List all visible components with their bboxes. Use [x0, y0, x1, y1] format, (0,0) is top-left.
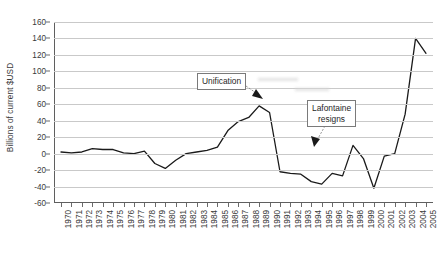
x-tick-mark	[270, 203, 271, 207]
x-tick-label: 1996	[335, 210, 344, 228]
x-tick-mark	[144, 203, 145, 207]
data-line	[61, 38, 426, 188]
annotation-lafontaine: Lafontaine resigns	[307, 100, 356, 127]
x-tick-label: 1992	[294, 210, 303, 228]
annotation-lafontaine-label-line1: Lafontaine	[312, 103, 351, 113]
x-tick-mark	[322, 203, 323, 207]
x-tick-mark	[61, 203, 62, 207]
x-tick-mark	[228, 203, 229, 207]
x-tick-label: 1974	[106, 210, 115, 228]
x-tick-mark	[92, 203, 93, 207]
x-tick-label: 1991	[283, 210, 292, 228]
x-tick-label: 2003	[408, 210, 417, 228]
x-tick-mark	[238, 203, 239, 207]
x-tick-label: 1971	[75, 210, 84, 228]
x-tick-label: 1977	[137, 210, 146, 228]
y-axis-title: Billions of current $USD	[0, 0, 22, 215]
x-tick-label: 1999	[367, 210, 376, 228]
x-tick-label: 1995	[325, 210, 334, 228]
x-tick-mark	[363, 203, 364, 207]
y-tick-mark	[46, 87, 50, 88]
gridline	[54, 55, 433, 56]
x-tick-mark	[71, 203, 72, 207]
gridline	[54, 22, 433, 23]
x-tick-mark	[207, 203, 208, 207]
y-tick-mark	[46, 186, 50, 187]
x-tick-mark	[353, 203, 354, 207]
x-tick-label: 1988	[252, 210, 261, 228]
x-tick-label: 2001	[387, 210, 396, 228]
x-tick-mark	[374, 203, 375, 207]
gridline	[54, 38, 433, 39]
x-tick-label: 1990	[273, 210, 282, 228]
gridline	[54, 170, 433, 171]
x-tick-mark	[259, 203, 260, 207]
y-tick-mark	[46, 120, 50, 121]
y-tick-mark	[46, 71, 50, 72]
gridline	[54, 104, 433, 105]
x-tick-label: 1973	[95, 210, 104, 228]
x-tick-mark	[82, 203, 83, 207]
y-tick-label: 60	[37, 100, 46, 109]
x-tick-label: 1981	[179, 210, 188, 228]
y-tick-label: 100	[32, 67, 46, 76]
x-tick-label: 1989	[262, 210, 271, 228]
gridline	[54, 121, 433, 122]
y-tick-mark	[46, 38, 50, 39]
y-tick-label: 80	[37, 83, 46, 92]
x-tick-label: 1985	[221, 210, 230, 228]
x-tick-mark	[416, 203, 417, 207]
x-tick-mark	[301, 203, 302, 207]
x-tick-label: 2005	[429, 210, 438, 228]
x-tick-mark	[217, 203, 218, 207]
chart-container: Billions of current $USD 160140120100806…	[0, 0, 440, 262]
x-tick-mark	[103, 203, 104, 207]
x-tick-label: 1975	[116, 210, 125, 228]
x-tick-label: 2002	[398, 210, 407, 228]
x-tick-mark	[280, 203, 281, 207]
x-tick-label: 1983	[200, 210, 209, 228]
gridline	[54, 154, 433, 155]
x-tick-mark	[384, 203, 385, 207]
x-tick-mark	[155, 203, 156, 207]
y-tick-mark	[46, 170, 50, 171]
y-tick-label: 140	[32, 34, 46, 43]
annotation-unification-label: Unification	[202, 76, 241, 86]
x-tick-mark	[343, 203, 344, 207]
x-tick-label: 1972	[85, 210, 94, 228]
x-tick-label: 1994	[314, 210, 323, 228]
x-tick-label: 1970	[64, 210, 73, 228]
y-tick-label: 20	[37, 133, 46, 142]
x-tick-mark	[290, 203, 291, 207]
x-tick-label: 2000	[377, 210, 386, 228]
plot-area	[54, 22, 433, 203]
x-tick-label: 1978	[148, 210, 157, 228]
gridline	[54, 187, 433, 188]
x-tick-label: 1982	[189, 210, 198, 228]
y-tick-mark	[46, 54, 50, 55]
x-tick-mark	[332, 203, 333, 207]
x-tick-mark	[165, 203, 166, 207]
x-tick-mark	[176, 203, 177, 207]
x-tick-label: 1979	[158, 210, 167, 228]
y-tick-label: 160	[32, 18, 46, 27]
x-tick-label: 1997	[346, 210, 355, 228]
y-tick-label: -60	[34, 199, 46, 208]
x-tick-label: 1993	[304, 210, 313, 228]
annotation-lafontaine-label-line2: resigns	[318, 114, 345, 124]
annotation-unification: Unification	[197, 73, 246, 90]
x-tick-label: 2004	[419, 210, 428, 228]
x-tick-label: 1987	[241, 210, 250, 228]
x-tick-label: 1976	[127, 210, 136, 228]
x-tick-label: 1986	[231, 210, 240, 228]
y-tick-label: 40	[37, 116, 46, 125]
x-tick-mark	[134, 203, 135, 207]
x-tick-label: 1980	[168, 210, 177, 228]
y-tick-label: -20	[34, 166, 46, 175]
x-tick-mark	[124, 203, 125, 207]
x-tick-mark	[405, 203, 406, 207]
x-axis-tick-labels: 1970197119721973197419751976197719781979…	[54, 203, 433, 262]
y-tick-label: 120	[32, 50, 46, 59]
series-line-current-account	[54, 22, 433, 203]
x-tick-mark	[311, 203, 312, 207]
